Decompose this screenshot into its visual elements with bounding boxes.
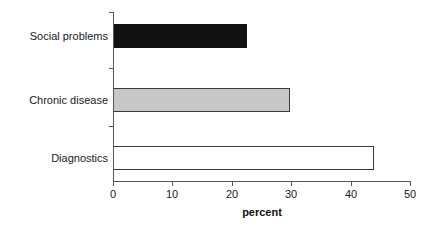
category-label-diagnostics: Diagnostics — [3, 152, 108, 165]
x-axis-title: percent — [113, 205, 411, 219]
x-axis-line — [113, 181, 411, 182]
x-axis-ticklabel-50: 50 — [395, 188, 425, 201]
x-axis-tick-10 — [172, 182, 173, 186]
y-axis-tick-top — [109, 12, 113, 13]
x-axis-ticklabel-40: 40 — [336, 188, 366, 201]
x-axis-tick-30 — [291, 182, 292, 186]
category-label-chronic-disease: Chronic disease — [3, 94, 108, 107]
y-axis-tick-1 — [109, 68, 113, 69]
x-axis-ticklabel-20: 20 — [217, 188, 247, 201]
y-axis-tick-2 — [109, 126, 113, 127]
x-axis-tick-50 — [410, 182, 411, 186]
category-label-social-problems: Social problems — [3, 30, 108, 43]
bar-chronic-disease — [113, 88, 290, 112]
bar-social-problems — [113, 24, 247, 48]
x-axis-ticklabel-10: 10 — [157, 188, 187, 201]
x-axis-tick-40 — [351, 182, 352, 186]
x-axis-ticklabel-30: 30 — [276, 188, 306, 201]
x-axis-tick-20 — [232, 182, 233, 186]
bar-diagnostics — [113, 146, 374, 170]
category-axis-labels: Social problems Chronic disease Diagnost… — [0, 0, 108, 235]
x-axis-tick-0 — [113, 182, 114, 186]
x-axis-ticklabel-0: 0 — [98, 188, 128, 201]
y-axis-line — [113, 12, 114, 182]
bar-chart: Social problems Chronic disease Diagnost… — [0, 0, 432, 235]
